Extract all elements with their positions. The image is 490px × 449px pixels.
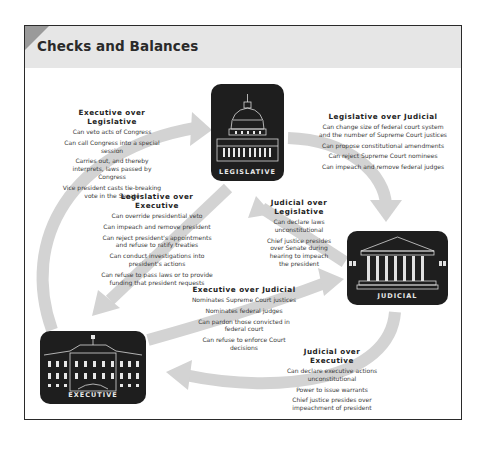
exec-over-jud-block: Executive over Judicial Nominates Suprem… <box>190 285 298 355</box>
check-item: Can conduct investigations into presiden… <box>98 252 216 268</box>
check-item: Can override presidential veto <box>98 212 216 220</box>
check-item: Power to issue warrants <box>282 386 382 394</box>
check-item: Can propose constitutional amendments <box>318 142 448 150</box>
leg-over-exec-block: Legislative over Executive Can override … <box>98 192 216 289</box>
check-item: Carries out, and thereby interprets, law… <box>60 157 164 180</box>
exec-over-jud-heading: Executive over Judicial <box>190 285 298 294</box>
legislative-branch: LEGISLATIVE <box>211 84 284 181</box>
exec-over-leg-block: Executive over Legislative Can veto acts… <box>60 108 164 202</box>
check-item: Chief justice presides over impeachment … <box>282 396 382 412</box>
jud-over-exec-heading: Judicial over Executive <box>282 347 382 365</box>
check-item: Can pardon those convicted in federal co… <box>190 318 298 334</box>
check-item: Nominates federal judges <box>190 307 298 315</box>
jud-over-leg-block: Judicial over Legislative Can declare la… <box>265 198 333 271</box>
check-item: Can impeach and remove federal judges <box>318 163 448 171</box>
check-item: Nominates Supreme Court justices <box>190 296 298 304</box>
check-item: Can impeach and remove president <box>98 223 216 231</box>
leg-over-jud-block: Legislative over Judicial Can change siz… <box>318 112 448 174</box>
check-item: Can declare laws unconstitutional <box>265 218 333 234</box>
check-item: Chief justice presides over Senate durin… <box>265 237 333 268</box>
check-item: Can reject president's appointments and … <box>98 234 216 250</box>
executive-label: EXECUTIVE <box>40 391 146 399</box>
judicial-branch: JUDICIAL <box>347 231 448 305</box>
leg-over-exec-heading: Legislative over Executive <box>98 192 216 210</box>
check-item: Can veto acts of Congress <box>60 128 164 136</box>
capitol-building-icon <box>211 84 284 181</box>
exec-over-leg-heading: Executive over Legislative <box>60 108 164 126</box>
judicial-label: JUDICIAL <box>347 292 448 300</box>
jud-over-exec-block: Judicial over Executive Can declare exec… <box>282 347 382 415</box>
check-item: Can call Congress into a special session <box>60 139 164 155</box>
jud-over-leg-heading: Judicial over Legislative <box>265 198 333 216</box>
leg-over-jud-heading: Legislative over Judicial <box>318 112 448 121</box>
check-item: Can declare executive actions unconstitu… <box>282 367 382 383</box>
check-item: Can reject Supreme Court nominees <box>318 152 448 160</box>
executive-branch: EXECUTIVE <box>40 331 146 404</box>
legislative-label: LEGISLATIVE <box>211 168 284 176</box>
check-item: Can change size of federal court system … <box>318 123 448 139</box>
